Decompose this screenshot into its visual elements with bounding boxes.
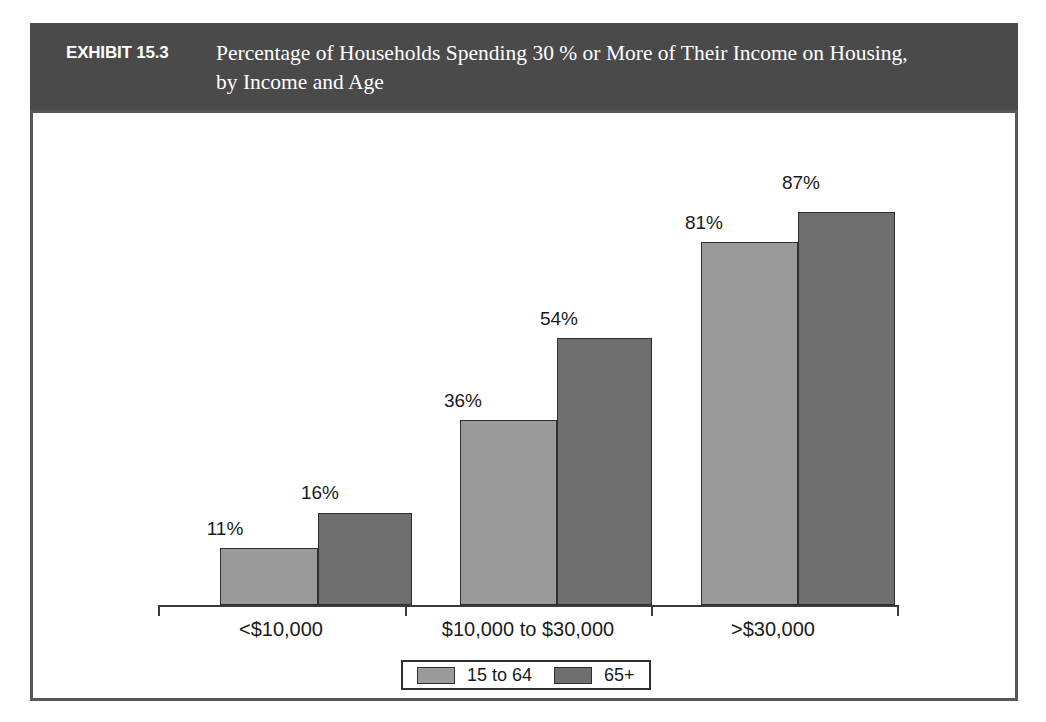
chart-panel: 11% 16% 36% 54% 81% 87% <$10,000 $10,000… bbox=[30, 110, 1018, 701]
x-axis-tick bbox=[158, 605, 160, 616]
bar-value-label: 36% bbox=[423, 390, 503, 412]
bar-65plus-gt30000 bbox=[798, 212, 895, 605]
bar-65plus-10000to30000 bbox=[557, 338, 652, 605]
legend-item-15to64: 15 to 64 bbox=[417, 665, 532, 686]
x-axis-tick bbox=[897, 605, 899, 616]
bar-15to64-lt10000 bbox=[220, 548, 318, 605]
legend-label: 15 to 64 bbox=[467, 665, 532, 686]
bar-15to64-10000to30000 bbox=[460, 420, 557, 605]
bar-value-label: 11% bbox=[185, 518, 265, 540]
x-axis-tick bbox=[405, 605, 407, 616]
bar-value-label: 87% bbox=[761, 172, 841, 194]
exhibit-container: EXHIBIT 15.3 Percentage of Households Sp… bbox=[30, 23, 1018, 701]
legend-label: 65+ bbox=[604, 665, 635, 686]
x-axis-tick bbox=[651, 605, 653, 616]
exhibit-title: Percentage of Households Spending 30 % o… bbox=[216, 39, 916, 97]
bar-65plus-lt10000 bbox=[318, 513, 412, 605]
exhibit-header: EXHIBIT 15.3 Percentage of Households Sp… bbox=[30, 23, 1018, 110]
x-axis-line bbox=[158, 605, 898, 607]
plot-area: 11% 16% 36% 54% 81% 87% <$10,000 $10,000… bbox=[33, 110, 1015, 695]
x-axis-category-label: >$30,000 bbox=[683, 618, 863, 641]
bar-value-label: 16% bbox=[280, 482, 360, 504]
legend-item-65plus: 65+ bbox=[554, 665, 635, 686]
legend-swatch-icon bbox=[554, 667, 592, 684]
x-axis-category-label: <$10,000 bbox=[201, 618, 361, 641]
exhibit-header-inner: EXHIBIT 15.3 Percentage of Households Sp… bbox=[66, 39, 994, 97]
x-axis-category-label: $10,000 to $30,000 bbox=[408, 618, 648, 641]
chart-legend: 15 to 64 65+ bbox=[401, 660, 651, 690]
bar-value-label: 81% bbox=[664, 212, 744, 234]
legend-swatch-icon bbox=[417, 667, 455, 684]
bar-15to64-gt30000 bbox=[701, 242, 798, 605]
bar-value-label: 54% bbox=[519, 308, 599, 330]
exhibit-number-label: EXHIBIT 15.3 bbox=[66, 39, 168, 67]
